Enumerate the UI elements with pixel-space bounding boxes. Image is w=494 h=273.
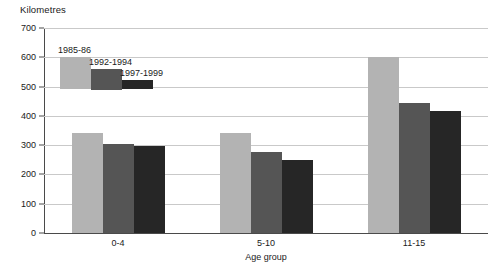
x-axis-tick-label: 5-10 [257,238,275,248]
y-axis-title: Kilometres [20,4,66,15]
bar-chart: Kilometres 0100200300400500600700 1985-8… [0,0,494,273]
bar [72,133,103,233]
x-axis-tick-labels: 0-45-1011-15 [44,238,488,252]
legend-swatch [122,80,153,90]
legend-swatch [91,69,122,90]
bar [251,152,282,233]
legend-label: 1997-1999 [120,68,163,78]
plot-area: 1985-861992-19941997-1999 [44,28,488,233]
gridline [44,28,488,29]
x-axis-tick-label: 11-15 [403,238,425,248]
bar [430,111,461,233]
bar [134,146,165,233]
x-axis-baseline [44,233,488,234]
bar [220,133,251,233]
bar [282,160,313,233]
legend-swatch [60,57,91,89]
bar [103,144,134,233]
legend-label: 1985-86 [58,45,91,55]
x-axis-title: Age group [44,252,488,262]
bar [399,103,430,233]
x-axis-tick-label: 0-4 [111,238,124,248]
bar [368,57,399,233]
legend-label: 1992-1994 [89,57,132,67]
y-axis-tick-marks [0,28,44,233]
